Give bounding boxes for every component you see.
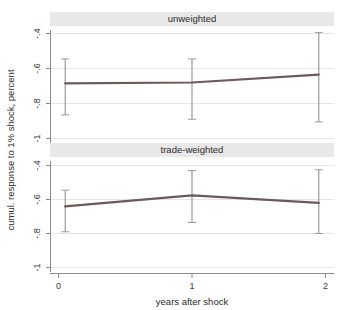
x-axis-title: years after shock <box>156 296 229 307</box>
y-tick-label-unweighted-0: -.4 <box>32 28 42 39</box>
y-tick-label-unweighted-1: -.6 <box>32 63 42 74</box>
x-tick-label-1: 1 <box>189 281 194 291</box>
y-tick-label-unweighted-3: -1 <box>32 134 42 142</box>
y-tick-label-tradeweighted-3: -1 <box>32 263 42 271</box>
panel-trade-weighted: trade-weighted -.4 -.6 -.8 -1 <box>32 143 334 273</box>
y-tick-label-tradeweighted-0: -.4 <box>32 160 42 171</box>
y-axis-title: cumul. response to 1% shock, percent <box>5 69 16 230</box>
chart-figure: cumul. response to 1% shock, percent unw… <box>0 0 340 310</box>
chart-canvas: cumul. response to 1% shock, percent unw… <box>0 0 340 310</box>
x-tick-label-2: 2 <box>323 281 328 291</box>
panel-unweighted: unweighted -.4 -.6 -.8 -1 <box>32 12 334 146</box>
panel-unweighted-title: unweighted <box>168 13 217 24</box>
panel-trade-weighted-title: trade-weighted <box>161 144 224 155</box>
y-axis-title-text: cumul. response to 1% shock, percent <box>5 69 16 230</box>
y-tick-label-tradeweighted-1: -.6 <box>32 194 42 205</box>
y-tick-label-unweighted-2: -.8 <box>32 98 42 109</box>
y-tick-label-tradeweighted-2: -.8 <box>32 228 42 239</box>
x-tick-label-0: 0 <box>56 281 61 291</box>
